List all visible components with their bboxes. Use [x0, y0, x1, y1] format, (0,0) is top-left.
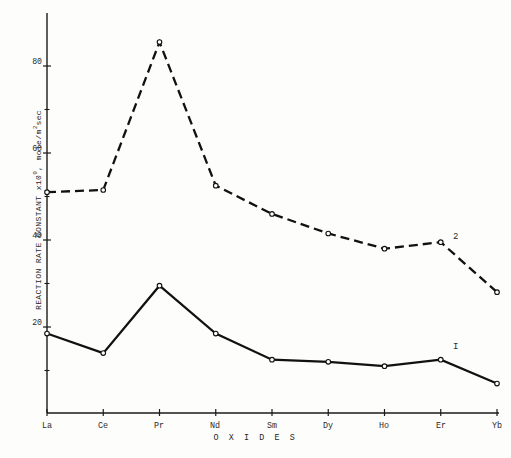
- data-point-marker: [270, 357, 275, 362]
- data-point-marker: [495, 381, 500, 386]
- x-tick-label-la: La: [34, 421, 60, 431]
- x-tick-label-ho: Ho: [371, 421, 397, 431]
- y-axis-title-tail: sec: [34, 110, 43, 126]
- data-point-marker: [101, 351, 106, 356]
- data-point-marker: [157, 40, 162, 45]
- series-2: [45, 40, 500, 295]
- data-point-marker: [213, 331, 218, 336]
- data-point-marker: [495, 290, 500, 295]
- data-series-layer: [45, 40, 500, 386]
- x-tick-label-ce: Ce: [90, 421, 116, 431]
- y-tick-label-40: 40: [20, 231, 42, 240]
- chart-figure: REACTION RATE CONSTANT x109, mole/m2sec …: [0, 0, 511, 458]
- y-axis-title-exponent-two: 2: [32, 126, 39, 130]
- x-tick-label-nd: Nd: [202, 421, 228, 431]
- data-point-marker: [157, 283, 162, 288]
- series-label-two: 2: [453, 232, 458, 242]
- y-axis-title-prefix: REACTION RATE CONSTANT x10: [34, 175, 43, 310]
- series-label-one: I: [453, 342, 458, 352]
- data-point-marker: [270, 212, 275, 217]
- series-I: [45, 283, 500, 385]
- y-tick-label-20: 20: [20, 318, 42, 327]
- data-point-marker: [382, 246, 387, 251]
- data-point-marker: [382, 364, 387, 369]
- y-axis-title: REACTION RATE CONSTANT x109, mole/m2sec: [32, 85, 46, 335]
- y-tick-label-80: 80: [20, 57, 42, 66]
- series-line-2: [47, 42, 497, 292]
- axis-ticks: [43, 66, 497, 416]
- x-tick-label-sm: Sm: [259, 421, 285, 431]
- x-tick-label-er: Er: [428, 421, 454, 431]
- y-tick-label-60: 60: [20, 144, 42, 153]
- data-point-marker: [326, 231, 331, 236]
- data-point-marker: [213, 183, 218, 188]
- x-axis-title: O X I D E S: [0, 433, 511, 443]
- data-point-marker: [438, 240, 443, 245]
- data-point-marker: [326, 360, 331, 365]
- data-point-marker: [438, 357, 443, 362]
- x-tick-label-dy: Dy: [315, 421, 341, 431]
- y-axis-title-exponent: 9: [32, 171, 39, 175]
- x-tick-label-pr: Pr: [146, 421, 172, 431]
- x-tick-label-yb: Yb: [484, 421, 510, 431]
- plot-area: [0, 0, 511, 458]
- series-line-I: [47, 286, 497, 384]
- data-point-marker: [101, 188, 106, 193]
